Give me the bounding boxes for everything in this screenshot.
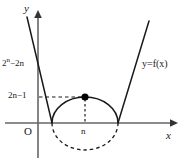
x-axis-label: x bbox=[166, 130, 171, 141]
peak-point-marker bbox=[81, 93, 88, 100]
y-intercept-label: 2n−2n bbox=[2, 59, 24, 68]
x-tick-label-n: n bbox=[81, 127, 86, 136]
y-axis-label: y bbox=[24, 3, 29, 14]
peak-value-label: 2n−1 bbox=[8, 91, 27, 100]
function-right-branch bbox=[118, 21, 149, 123]
figure-container: y x O 2n−2n 2n−1 n y=f(x) bbox=[0, 0, 184, 161]
function-left-branch bbox=[27, 17, 52, 123]
curve-label: y=f(x) bbox=[142, 59, 168, 69]
y-axis-arrowhead-icon bbox=[34, 10, 42, 18]
y-intercept-rest: −2n bbox=[10, 58, 24, 68]
x-axis-arrowhead-icon bbox=[170, 119, 178, 127]
y-axis bbox=[34, 10, 42, 158]
origin-label: O bbox=[24, 126, 32, 137]
